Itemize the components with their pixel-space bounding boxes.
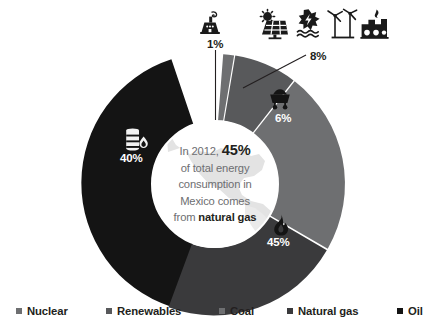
legend-label-nuclear: Nuclear — [27, 305, 68, 317]
legend-label-renewables: Renewables — [117, 305, 181, 317]
legend-label-natural-gas: Natural gas — [298, 305, 358, 317]
legend-swatch-nuclear — [16, 308, 22, 314]
legend-item-nuclear[interactable]: Nuclear — [16, 301, 68, 321]
legend-item-coal[interactable]: Coal — [219, 301, 254, 321]
legend-swatch-renewables — [106, 308, 112, 314]
legend-swatch-natural-gas — [287, 308, 293, 314]
legend-item-natural-gas[interactable]: Natural gas — [287, 301, 358, 321]
legend-swatch-oil — [397, 308, 403, 314]
legend-swatch-coal — [219, 308, 225, 314]
chart-canvas — [0, 0, 425, 328]
legend-label-coal: Coal — [230, 305, 254, 317]
chart-legend: Nuclear Renewables Coal Natural gas Oil — [0, 299, 425, 323]
energy-consumption-donut-chart: 40% 45% 6% 1% 8% In 2012, 45% of total e… — [0, 0, 425, 328]
legend-item-renewables[interactable]: Renewables — [106, 301, 181, 321]
legend-label-oil: Oil — [408, 305, 423, 317]
legend-item-oil[interactable]: Oil — [397, 301, 423, 321]
